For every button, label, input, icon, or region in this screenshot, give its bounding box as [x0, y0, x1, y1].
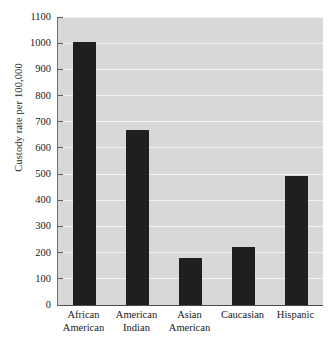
y-axis-tick [58, 174, 63, 175]
y-axis-tick-label: 900 [5, 64, 51, 75]
bar [126, 130, 149, 305]
x-axis-category-label: AsianAmerican [163, 309, 216, 334]
y-axis-tick [58, 95, 63, 96]
y-axis-tick-label: 200 [5, 248, 51, 259]
bar [179, 258, 202, 305]
y-axis-tick-label: 300 [5, 221, 51, 232]
gridline [58, 95, 323, 96]
y-axis-tick [58, 147, 63, 148]
y-axis-tick-label: 400 [5, 195, 51, 206]
x-axis-category-label: AfricanAmerican [57, 309, 110, 334]
y-axis-tick [58, 305, 63, 306]
gridline [58, 252, 323, 253]
y-axis-tick [58, 43, 63, 44]
category-label-line-2: American [57, 322, 110, 335]
bar-chart: Custody rate per 100,000 010020030040050… [0, 0, 333, 351]
y-axis-tick [58, 278, 63, 279]
category-label-line-1: Caucasian [221, 309, 264, 320]
y-axis-tick [58, 17, 63, 18]
plot-area [57, 17, 323, 306]
gridline [58, 69, 323, 70]
x-axis-category-label: Caucasian [216, 309, 269, 322]
y-axis-tick-label: 1000 [5, 38, 51, 49]
category-label-line-2: American [163, 322, 216, 335]
x-axis-category-label: AmericanIndian [110, 309, 163, 334]
gridline [58, 200, 323, 201]
category-label-line-2: Indian [110, 322, 163, 335]
gridline [58, 174, 323, 175]
x-axis-category-label: Hispanic [269, 309, 322, 322]
bar [73, 42, 96, 305]
gridline [58, 121, 323, 122]
category-label-line-1: African [67, 309, 99, 320]
y-axis-tick-label: 1100 [5, 12, 51, 23]
bar [285, 176, 308, 305]
gridline [58, 17, 323, 18]
y-axis-tick [58, 200, 63, 201]
y-axis-tick-label: 600 [5, 143, 51, 154]
y-axis-tick [58, 252, 63, 253]
y-axis-tick [58, 121, 63, 122]
gridline [58, 226, 323, 227]
y-axis-tick-label: 0 [5, 300, 51, 311]
y-axis-tick-label: 700 [5, 117, 51, 128]
bar [232, 247, 255, 305]
gridline [58, 147, 323, 148]
category-label-line-1: American [116, 309, 157, 320]
y-axis-tick-label: 800 [5, 91, 51, 102]
y-axis-tick [58, 226, 63, 227]
y-axis-tick-label: 500 [5, 169, 51, 180]
y-axis-tick-label: 100 [5, 274, 51, 285]
category-label-line-1: Asian [177, 309, 202, 320]
y-axis-tick [58, 69, 63, 70]
category-label-line-1: Hispanic [277, 309, 314, 320]
gridline [58, 43, 323, 44]
